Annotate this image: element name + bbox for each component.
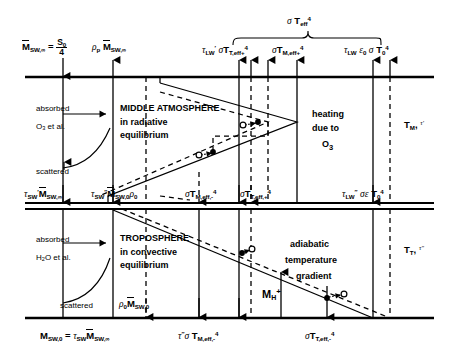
- brace-teff: [233, 31, 381, 45]
- label-middle-scattered: scattered: [36, 168, 69, 176]
- label-heating-line1: heating: [312, 110, 344, 119]
- label-middle-atmosphere-title: MIDDLE ATMOSPHERE: [120, 104, 220, 113]
- label-tropo-absorber: H2O et al.: [36, 254, 71, 263]
- label-sw-right-mid: τSW″MSW,0ρ0: [91, 189, 137, 200]
- label-tropo-absorbed: absorbed: [36, 236, 69, 244]
- label-gradient-line3: gradient: [296, 272, 332, 281]
- label-lw-surface-top: τLW ε0 σ T04: [344, 45, 389, 56]
- label-troposphere-title: TROPOSPHERE: [120, 234, 189, 243]
- label-lw-t-eff-plus-top: τLW′ σTT,eff+4: [202, 45, 248, 56]
- label-troposphere-sub1: in convective: [120, 248, 177, 257]
- label-middle-atmosphere-sub1: in radiative: [120, 118, 168, 127]
- label-middle-absorbed: absorbed: [36, 105, 69, 113]
- label-gradient-line1: adiabatic: [290, 240, 329, 249]
- label-middle-absorber: O3 et al.: [36, 123, 65, 132]
- label-troposphere-state-vars: TT, τ″: [404, 245, 424, 256]
- label-heating-line2: due to: [312, 124, 339, 133]
- label-sw-surface-bottom: MSW,0 = τSWMSW,∞: [40, 331, 110, 342]
- label-lw-surface-mid: τLW″ σε T04: [342, 189, 384, 200]
- label-troposphere-sub2: equilibrium: [120, 261, 169, 270]
- label-lw-m-eff-minus-mid: σTM,eff,-4: [185, 189, 216, 200]
- figure-canvas: MSW,∞ = S04 ρp MSW,∞ σ Teff4 τLW′ σTT,ef…: [0, 0, 458, 356]
- troposphere-absorption: [63, 243, 110, 303]
- label-sw-reflected: ρp MSW,∞: [92, 42, 126, 53]
- label-sw-left-mid: τSW′MSW,∞: [24, 189, 62, 200]
- middle-absorption: [63, 114, 110, 170]
- label-brace-sigma-teff: σ Teff4: [287, 16, 311, 27]
- label-heat-flux-mh: MH+: [262, 288, 281, 301]
- label-middle-atmosphere-sub2: equilibrium: [120, 131, 169, 140]
- label-sw-incoming: MSW,∞ = S04: [22, 38, 67, 57]
- label-lw-t-eff-minus-bottom: σTT,eff,-4: [305, 331, 334, 342]
- label-lw-m-eff-plus-top: σTM,eff+4: [272, 45, 303, 56]
- label-gradient-line2: temperature: [285, 256, 337, 265]
- troposphere-flux-lines-dashed: [146, 209, 390, 318]
- middle-flux-lines-dashed: [146, 77, 390, 203]
- label-tropo-scattered: scattered: [60, 302, 93, 310]
- label-heating-line3: O3: [322, 140, 333, 152]
- label-middle-state-vars: TM, τ′: [404, 120, 424, 131]
- toa-arrows: [63, 58, 390, 77]
- label-lw-m-eff-minus-bottom: τ″σ TM,eff,-4: [178, 331, 218, 342]
- label-lw-t-eff-plus-mid: σTT,eff,+4: [240, 189, 271, 200]
- label-tropo-reflected-surface: ρ0MSW,0: [119, 299, 149, 310]
